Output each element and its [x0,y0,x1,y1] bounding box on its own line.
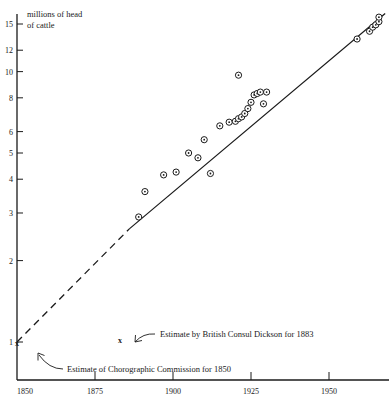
y-tick-label-8: 8 [9,94,13,103]
x-tick-label-1950: 1950 [321,387,337,396]
data-point-center-18 [259,91,261,93]
cattle-population-chart: 123456810121518501875190019251950xxEstim… [0,0,390,407]
data-point-center-26 [378,21,380,23]
data-point-center-6 [203,139,205,141]
y-tick-label-4: 4 [9,175,13,184]
data-point-center-20 [266,91,268,93]
y-tick-label-15: 15 [5,20,13,29]
data-point-center-15 [250,101,252,103]
x-tick-label-1900: 1900 [165,387,181,396]
x-tick-label-1875: 1875 [87,387,103,396]
annotation-dickson-text: Estimate by British Consul Dickson for 1… [160,329,313,339]
data-point-center-4 [188,152,190,154]
annotation-chorographic-text: Estimate of Chorographic Commission for … [67,364,231,374]
data-point-center-14 [247,108,249,110]
annotation-dickson-leader [135,334,155,342]
data-point-center-5 [197,157,199,159]
annotation-chorographic-arrowhead [38,353,45,361]
data-point-center-9 [228,121,230,123]
data-point-center-8 [219,125,221,127]
annotation-chorographic-leader [39,355,63,369]
dickson-estimate: x [118,336,122,345]
y-tick-label-3: 3 [9,209,13,218]
data-point-center-7 [210,173,212,175]
data-point-center-12 [241,116,243,118]
y-axis-title-line2: of cattle [27,20,55,30]
data-point-center-21 [238,74,240,76]
chart-canvas: 123456810121518501875190019251950xxEstim… [0,0,390,407]
data-point-center-27 [378,16,380,18]
chorographic-commission-estimate: x [15,339,19,348]
y-tick-label-2: 2 [9,257,13,266]
x-tick-label-1925: 1925 [243,387,259,396]
trend-line-solid [129,14,385,229]
y-tick-label-6: 6 [9,128,13,137]
y-tick-label-1: 1 [9,338,13,347]
y-tick-label-5: 5 [9,149,13,158]
x-tick-label-1850: 1850 [17,387,33,396]
y-tick-label-10: 10 [5,68,13,77]
data-point-center-22 [356,38,358,40]
data-point-center-23 [369,30,371,32]
data-point-center-13 [244,113,246,115]
data-point-center-1 [144,191,146,193]
data-point-center-3 [175,171,177,173]
data-point-center-19 [263,103,265,105]
y-tick-label-12: 12 [5,46,13,55]
y-axis-title-line1: millions of head [27,9,83,19]
data-point-center-0 [138,216,140,218]
data-point-center-2 [163,174,165,176]
trend-line-dashed [17,229,129,342]
